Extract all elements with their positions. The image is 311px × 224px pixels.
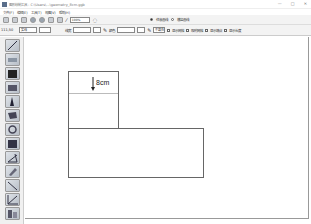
axis-tool-button[interactable] — [5, 193, 20, 206]
color-label: 颜色 — [109, 28, 115, 33]
drawing-canvas[interactable]: 8cm — [25, 37, 309, 219]
line-style-extra-select[interactable] — [39, 27, 51, 33]
diagonal-icon — [6, 180, 19, 191]
cursor-coordinates: 111,50 — [1, 28, 17, 32]
axis-icon — [6, 194, 19, 205]
diagonal-tool-button[interactable] — [5, 179, 20, 192]
line-width-label: 线宽 — [65, 28, 71, 33]
eraser-tool-button[interactable] — [5, 53, 20, 66]
close-button[interactable]: ✕ — [304, 1, 307, 6]
property-toolbar: 111,50 实线 线宽 ✎ 颜色 ✎ 不填充 显示网格 吸附网格 显示端点 显… — [0, 25, 311, 36]
triangle-icon — [6, 96, 19, 107]
minimize-button[interactable]: — — [278, 1, 282, 6]
window-title: 图形绘制工具 - C:\Users\...\geometry_8cm.ggb — [9, 2, 229, 7]
show-length-label: 显示长度 — [229, 28, 241, 33]
upper-rectangle[interactable]: 8cm — [68, 71, 119, 130]
radio-free-draw-label: 任意画线 — [156, 17, 168, 22]
triangle-tool-button[interactable] — [5, 95, 20, 108]
fill-color-icon[interactable]: ✎ — [147, 27, 151, 33]
fill-select[interactable]: 不填充 — [153, 27, 165, 33]
radio-free-draw[interactable] — [150, 18, 153, 21]
snap-grid-checkbox[interactable] — [186, 29, 189, 32]
window-controls: — □ ✕ — [278, 1, 307, 6]
print-button[interactable] — [57, 17, 63, 23]
fill-icon — [6, 68, 19, 79]
upper-divider-line — [69, 93, 118, 94]
angle-icon — [6, 152, 19, 163]
show-endpoints-checkbox[interactable] — [205, 29, 208, 32]
title-bar: 图形绘制工具 - C:\Users\...\geometry_8cm.ggb —… — [0, 0, 311, 9]
show-grid-checkbox[interactable] — [167, 29, 170, 32]
arrow-down-icon — [91, 77, 95, 91]
copy-button[interactable] — [48, 17, 54, 23]
cube-icon — [6, 138, 19, 149]
text-tool-button[interactable] — [5, 207, 20, 220]
ruler-tool-button[interactable] — [5, 165, 20, 178]
snap-grid-label: 吸附网格 — [191, 28, 203, 33]
eraser-icon — [6, 54, 19, 65]
angle-tool-button[interactable] — [5, 151, 20, 164]
show-endpoints-label: 显示端点 — [210, 28, 222, 33]
menu-view[interactable]: 视图(V) — [45, 10, 56, 15]
line-width-select[interactable] — [73, 27, 91, 33]
fill-tool-button[interactable] — [5, 67, 20, 80]
line-tool-button[interactable] — [5, 39, 20, 52]
color-spinner[interactable] — [137, 27, 145, 33]
menu-help[interactable]: 帮助(H) — [59, 10, 70, 15]
polygon-icon — [6, 110, 19, 121]
gear-circle-icon — [6, 124, 19, 135]
cube-tool-button[interactable] — [5, 137, 20, 150]
line-style-select[interactable]: 实线 — [19, 27, 37, 33]
lower-rectangle[interactable] — [68, 128, 204, 178]
pencil-icon[interactable]: ⁄ — [66, 17, 67, 23]
menu-file[interactable]: 文件(F) — [3, 10, 14, 15]
menu-edit[interactable]: 编辑(E) — [17, 10, 28, 15]
rectangle-tool-button[interactable] — [5, 81, 20, 94]
zoom-select[interactable]: 100% — [70, 17, 90, 23]
rectangle-icon — [6, 82, 19, 93]
color-select[interactable] — [117, 27, 135, 33]
undo-button[interactable] — [30, 17, 36, 23]
circle-tool-button[interactable] — [5, 123, 20, 136]
text-icon — [6, 208, 19, 219]
redo-button[interactable] — [39, 17, 45, 23]
show-length-checkbox[interactable] — [224, 29, 227, 32]
save-button[interactable] — [21, 17, 27, 23]
measure-label: 8cm — [96, 79, 109, 86]
menu-tools[interactable]: 工具(T) — [31, 10, 42, 15]
open-file-button[interactable] — [12, 17, 18, 23]
show-grid-label: 显示网格 — [172, 28, 184, 33]
drawing-tools-panel — [0, 37, 24, 224]
help-icon[interactable]: ◌ — [93, 17, 97, 23]
radio-straight-draw-label: 横竖画线 — [177, 17, 189, 22]
app-icon — [2, 2, 7, 7]
draw-mode-radio-group: 任意画线 横竖画线 — [150, 17, 189, 22]
pen-color-icon[interactable]: ✎ — [103, 27, 107, 33]
line-width-spinner[interactable] — [93, 27, 101, 33]
polygon-tool-button[interactable] — [5, 109, 20, 122]
new-file-button[interactable] — [3, 17, 9, 23]
maximize-button[interactable]: □ — [291, 1, 295, 6]
line-icon — [6, 40, 19, 51]
ruler-icon — [6, 166, 19, 177]
radio-straight-draw[interactable] — [171, 18, 174, 21]
